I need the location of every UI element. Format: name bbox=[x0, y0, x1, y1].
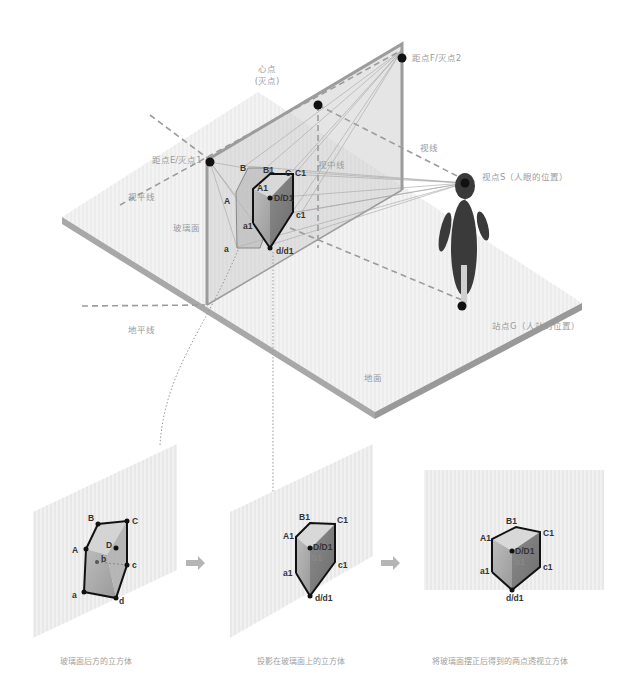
point-A1: A1 bbox=[257, 183, 268, 193]
p1-point-B: B bbox=[88, 513, 94, 523]
p1-point-a: a bbox=[72, 590, 77, 600]
p3-point-d-d1: d/d1 bbox=[506, 593, 524, 603]
p3-point-B1: B1 bbox=[506, 516, 517, 526]
arrow-right-icon bbox=[381, 556, 400, 570]
p3-point-D-D1: D/D1 bbox=[515, 546, 535, 556]
label-viewpoint: 视点S（人眼的位置） bbox=[482, 172, 568, 182]
p2-point-c1: c1 bbox=[338, 560, 348, 570]
main-scene: 心点 (灭点) 距点F/灭点2 距点E/灭点1 视线 视平线 视中线 玻璃面 地… bbox=[62, 44, 582, 502]
p2-point-A1: A1 bbox=[283, 531, 294, 541]
perspective-diagram: 心点 (灭点) 距点F/灭点2 距点E/灭点1 视线 视平线 视中线 玻璃面 地… bbox=[0, 0, 639, 694]
label-center-line: 视中线 bbox=[318, 160, 345, 170]
caption-panel-1: 玻璃面后方的立方体 bbox=[60, 656, 132, 666]
caption-panel-3: 将玻璃面摆正后得到的两点透视立方体 bbox=[432, 656, 568, 666]
point-B: B bbox=[240, 163, 246, 173]
point-a1: a1 bbox=[243, 221, 253, 231]
label-center-point-sub: (灭点) bbox=[255, 76, 280, 86]
point-a: a bbox=[224, 244, 229, 254]
point-d-d1: d/d1 bbox=[276, 246, 294, 256]
p2-point-C1: C1 bbox=[337, 515, 348, 525]
label-center-point: 心点 bbox=[258, 64, 276, 74]
label-horizon-line: 视平线 bbox=[128, 192, 155, 202]
distance-point-f-marker bbox=[398, 54, 407, 63]
distance-point-e-marker bbox=[206, 158, 215, 167]
p1-point-A: A bbox=[72, 545, 78, 555]
p3-point-c1: c1 bbox=[543, 562, 553, 572]
arrow-right-icon bbox=[186, 556, 205, 570]
p2-point-D-D1: D/D1 bbox=[313, 542, 333, 552]
p1-point-D: D bbox=[106, 540, 112, 550]
p3-point-b1: b1 bbox=[515, 557, 525, 567]
p3-point-C1: C1 bbox=[543, 528, 554, 538]
point-C1: C1 bbox=[295, 168, 306, 178]
p1-point-C: C bbox=[132, 516, 138, 526]
p2-point-B1: B1 bbox=[299, 512, 310, 522]
p1-point-b: b bbox=[101, 554, 106, 564]
label-ground: 地面 bbox=[364, 373, 382, 383]
point-B1: B1 bbox=[263, 165, 274, 175]
panel-projected-cube: B1 C1 A1 D/D1 b1 a1 c1 d/d1 投影在玻璃面上的立方体 bbox=[230, 444, 373, 666]
panel-two-point-cube: B1 C1 A1 D/D1 b1 a1 c1 d/d1 将玻璃面摆正后得到的两点… bbox=[424, 470, 604, 666]
label-standpoint: 站点G（人站的位置） bbox=[492, 321, 580, 331]
p3-point-A1: A1 bbox=[480, 533, 491, 543]
p3-point-a1: a1 bbox=[480, 566, 490, 576]
p2-point-d-d1: d/d1 bbox=[315, 593, 333, 603]
label-ground-line: 地平线 bbox=[128, 325, 155, 335]
label-sight-line: 视线 bbox=[420, 143, 438, 153]
label-distance-point-f: 距点F/灭点2 bbox=[412, 53, 461, 63]
center-point-marker bbox=[314, 101, 323, 110]
point-D-D1: D/D1 bbox=[274, 193, 294, 203]
p1-point-c: c bbox=[132, 560, 137, 570]
panel-rear-cube: B C A D b c a d 玻璃面后方的立方体 bbox=[33, 444, 177, 666]
p1-point-d: d bbox=[119, 596, 124, 606]
p2-point-a1: a1 bbox=[283, 568, 293, 578]
point-c1: c1 bbox=[296, 210, 306, 220]
point-A: A bbox=[224, 196, 230, 206]
label-glass-plane: 玻璃面 bbox=[173, 223, 200, 233]
label-distance-point-e: 距点E/灭点1 bbox=[152, 155, 202, 165]
point-C: C bbox=[285, 168, 291, 178]
p2-point-b1: b1 bbox=[312, 553, 322, 563]
caption-panel-2: 投影在玻璃面上的立方体 bbox=[257, 656, 345, 666]
